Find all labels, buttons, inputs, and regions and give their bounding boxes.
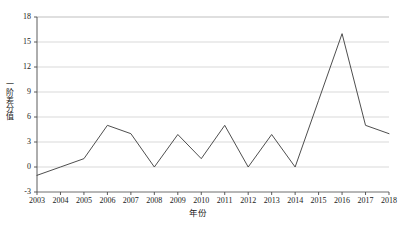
- x-tick-label-2012: 2012: [236, 197, 260, 205]
- x-tick-label-2008: 2008: [142, 197, 166, 205]
- x-tick-label-2016: 2016: [330, 197, 354, 205]
- x-tick-label-2005: 2005: [72, 197, 96, 205]
- y-tick-label-9: 9: [9, 88, 31, 96]
- y-tick-label--3: -3: [9, 188, 31, 196]
- x-tick-label-2015: 2015: [307, 197, 331, 205]
- x-tick-label-2018: 2018: [377, 197, 401, 205]
- x-tick-label-2007: 2007: [119, 197, 143, 205]
- x-tick-label-2006: 2006: [95, 197, 119, 205]
- y-tick-label-15: 15: [9, 38, 31, 46]
- y-tick-label-12: 12: [9, 63, 31, 71]
- x-tick-label-2014: 2014: [283, 197, 307, 205]
- x-tick-label-2003: 2003: [25, 197, 49, 205]
- x-tick-label-2010: 2010: [189, 197, 213, 205]
- x-tick-label-2004: 2004: [48, 197, 72, 205]
- data-series-line: [37, 34, 389, 176]
- x-tick-label-2017: 2017: [354, 197, 378, 205]
- x-tick-label-2011: 2011: [213, 197, 237, 205]
- x-tick-label-2013: 2013: [260, 197, 284, 205]
- y-tick-label-18: 18: [9, 13, 31, 21]
- y-tick-label-6: 6: [9, 113, 31, 121]
- y-tick-label-3: 3: [9, 138, 31, 146]
- x-axis-label: 年份: [0, 206, 396, 218]
- y-tick-label-0: 0: [9, 163, 31, 171]
- x-tick-label-2009: 2009: [166, 197, 190, 205]
